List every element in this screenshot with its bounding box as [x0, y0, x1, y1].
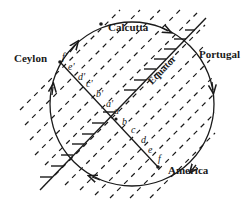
center-dot	[114, 117, 117, 120]
label-e: e	[148, 144, 153, 155]
label-f: f	[158, 153, 162, 164]
chord-line	[60, 62, 158, 167]
label-america: America	[168, 164, 209, 176]
label-b: b	[122, 116, 127, 127]
label-calcutta: Calcutta	[108, 21, 149, 33]
label-ceylon: Ceylon	[14, 52, 47, 64]
route-diagram: Calcutta Ceylon Portugal America Equator…	[0, 0, 251, 200]
label-e-prime: e'	[68, 61, 75, 72]
america-dot	[156, 165, 160, 169]
label-c-prime: c'	[86, 78, 93, 89]
label-a-prime: a'	[106, 98, 114, 109]
label-b-prime: b'	[96, 88, 104, 99]
label-a: a	[114, 105, 119, 116]
label-portugal: Portugal	[199, 48, 240, 60]
label-c: c	[131, 124, 136, 135]
label-d-prime: d'	[78, 71, 86, 82]
calcutta-dot	[99, 22, 103, 26]
diagram-canvas: Calcutta Ceylon Portugal America Equator…	[0, 0, 251, 200]
label-f-prime: f'	[62, 51, 68, 62]
location-dots	[58, 22, 160, 169]
